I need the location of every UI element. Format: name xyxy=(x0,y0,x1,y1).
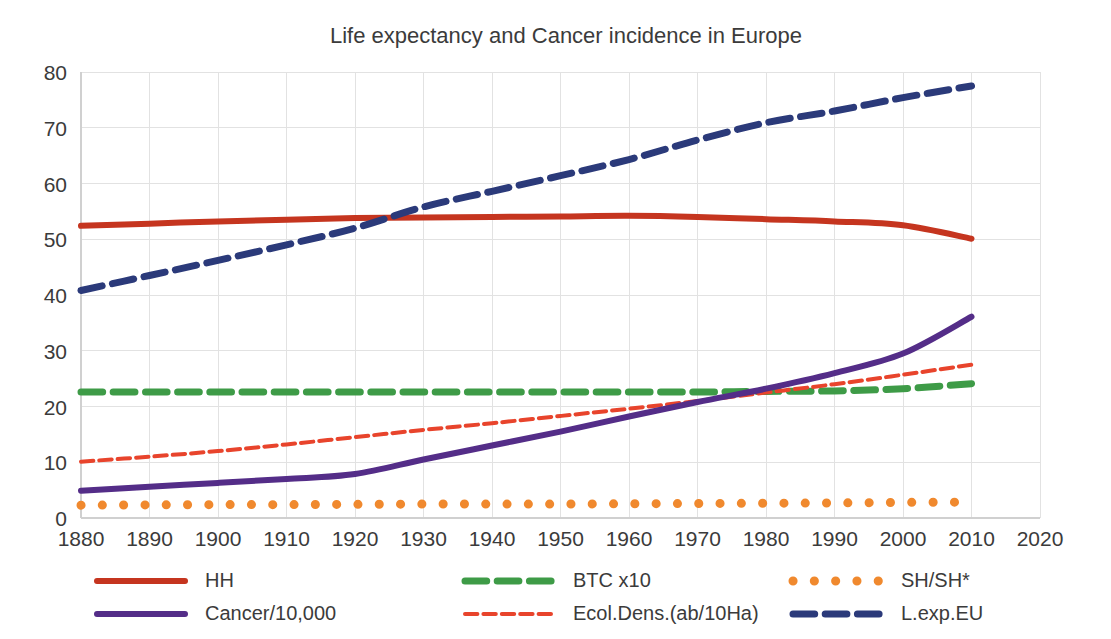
x-tick-label: 2010 xyxy=(948,527,995,550)
legend-label: Cancer/10,000 xyxy=(205,602,336,624)
x-tick-label: 1980 xyxy=(743,527,790,550)
y-axis-tick-labels: 01020304050607080 xyxy=(44,61,67,530)
y-tick-label: 20 xyxy=(44,396,67,419)
chart-container: Life expectancy and Cancer incidence in … xyxy=(0,0,1111,639)
y-tick-label: 40 xyxy=(44,284,67,307)
y-tick-label: 50 xyxy=(44,228,67,251)
legend-label: BTC x10 xyxy=(573,569,651,591)
legend-label: SH/SH* xyxy=(901,569,970,591)
y-tick-label: 70 xyxy=(44,117,67,140)
x-tick-label: 1890 xyxy=(126,527,173,550)
y-tick-label: 80 xyxy=(44,61,67,84)
legend-label: HH xyxy=(205,569,234,591)
legend-label: Ecol.Dens.(ab/10Ha) xyxy=(573,602,759,624)
x-axis-tick-labels: 1880189019001910192019301940195019601970… xyxy=(58,527,1064,550)
y-tick-label: 10 xyxy=(44,451,67,474)
line-chart: Life expectancy and Cancer incidence in … xyxy=(0,0,1111,639)
x-tick-label: 1940 xyxy=(469,527,516,550)
x-tick-label: 1910 xyxy=(263,527,310,550)
x-tick-label: 1900 xyxy=(195,527,242,550)
x-tick-label: 1970 xyxy=(674,527,721,550)
x-tick-label: 1930 xyxy=(400,527,447,550)
y-tick-label: 60 xyxy=(44,173,67,196)
x-tick-label: 1950 xyxy=(537,527,584,550)
y-tick-label: 30 xyxy=(44,340,67,363)
legend-label: L.exp.EU xyxy=(901,602,983,624)
chart-title: Life expectancy and Cancer incidence in … xyxy=(330,23,802,48)
x-tick-label: 1960 xyxy=(606,527,653,550)
x-tick-label: 2020 xyxy=(1017,527,1064,550)
x-tick-label: 2000 xyxy=(880,527,927,550)
x-tick-label: 1990 xyxy=(811,527,858,550)
x-tick-label: 1920 xyxy=(332,527,379,550)
x-tick-label: 1880 xyxy=(58,527,105,550)
